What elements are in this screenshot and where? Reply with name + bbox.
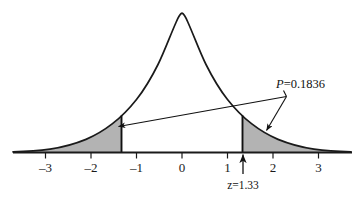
probability-annotation-symbol: P bbox=[275, 77, 284, 91]
axis-tick-label-0: 0 bbox=[179, 160, 186, 175]
z-value-annotation: z=1.33 bbox=[227, 179, 259, 191]
right-tail-shaded-area bbox=[243, 116, 352, 153]
axis-tick-label-3: 3 bbox=[315, 160, 322, 175]
probability-annotation-value: =0.1836 bbox=[284, 77, 325, 91]
left-tail-shaded-area bbox=[13, 116, 122, 153]
normal-curve-chart: –3 –2 –1 0 1 2 3 P=0.1836 bbox=[0, 0, 364, 198]
normal-distribution-figure: –3 –2 –1 0 1 2 3 P=0.1836 bbox=[0, 0, 364, 198]
leader-line-from-p-label bbox=[284, 91, 287, 97]
axis-tick-label--3: –3 bbox=[38, 160, 52, 175]
axis-tick-label--2: –2 bbox=[84, 160, 98, 175]
axis-tick-label-1: 1 bbox=[224, 160, 231, 175]
probability-annotation: P=0.1836 bbox=[275, 77, 325, 91]
axis-tick-label-2: 2 bbox=[270, 160, 277, 175]
leader-line-to-right-tail bbox=[267, 97, 287, 131]
leader-line-to-left-tail bbox=[119, 97, 287, 127]
z-value-annotation-value: =1.33 bbox=[232, 179, 259, 191]
axis-tick-labels: –3 –2 –1 0 1 2 3 bbox=[38, 160, 322, 175]
axis-tick-label--1: –1 bbox=[129, 160, 143, 175]
